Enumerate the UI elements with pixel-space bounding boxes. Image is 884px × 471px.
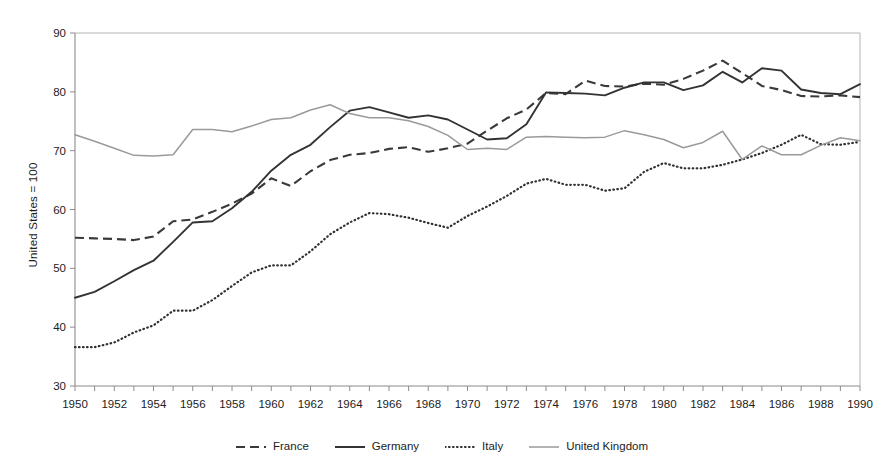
x-tick-label: 1958 — [219, 398, 245, 410]
plot-area: 30405060708090 1950195219541956195819601… — [0, 0, 884, 471]
x-tick-label: 1984 — [729, 398, 755, 410]
legend-label: Italy — [482, 441, 503, 453]
x-tick-label: 1962 — [298, 398, 324, 410]
y-tick-label: 50 — [53, 262, 66, 274]
x-tick-label: 1972 — [494, 398, 520, 410]
y-tick-label: 80 — [53, 86, 66, 98]
legend-item-france[interactable]: France — [236, 441, 309, 453]
series-line-united-kingdom — [75, 105, 860, 160]
x-tick-label: 1980 — [651, 398, 677, 410]
line-chart-svg: 30405060708090 1950195219541956195819601… — [0, 0, 884, 471]
y-tick-label: 60 — [53, 204, 66, 216]
x-tick-label: 1970 — [455, 398, 481, 410]
x-tick-label: 1954 — [141, 398, 167, 410]
x-tick-label: 1956 — [180, 398, 206, 410]
x-tick-label: 1978 — [612, 398, 638, 410]
y-tick-label: 90 — [53, 27, 66, 39]
x-tick-label: 1966 — [376, 398, 402, 410]
x-tick-label: 1986 — [769, 398, 795, 410]
legend-label: Germany — [372, 441, 419, 453]
y-tick-label: 70 — [53, 145, 66, 157]
legend-label: United Kingdom — [566, 441, 648, 453]
legend-swatch-dashed — [236, 442, 266, 452]
series-line-germany — [75, 68, 860, 297]
legend-swatch-thin-solid — [529, 442, 559, 452]
x-axis-ticks: 1950195219541956195819601962196419661968… — [62, 386, 873, 410]
y-tick-label: 40 — [53, 321, 66, 333]
legend-label: France — [273, 441, 309, 453]
y-axis-ticks: 30405060708090 — [53, 27, 75, 392]
x-tick-label: 1968 — [415, 398, 441, 410]
x-tick-label: 1960 — [258, 398, 284, 410]
plot-frame — [75, 33, 860, 386]
legend-item-italy[interactable]: Italy — [445, 441, 503, 453]
x-tick-label: 1952 — [101, 398, 127, 410]
x-tick-label: 1974 — [533, 398, 559, 410]
x-tick-label: 1976 — [572, 398, 598, 410]
x-tick-label: 1950 — [62, 398, 88, 410]
x-tick-label: 1990 — [847, 398, 873, 410]
x-tick-label: 1982 — [690, 398, 716, 410]
chart-page: United States = 100 30405060708090 19501… — [0, 0, 884, 471]
legend-swatch-solid — [335, 442, 365, 452]
legend-swatch-dotted — [445, 442, 475, 452]
y-tick-label: 30 — [53, 380, 66, 392]
data-series-group — [75, 61, 860, 348]
legend-item-united-kingdom[interactable]: United Kingdom — [529, 441, 648, 453]
x-tick-label: 1988 — [808, 398, 834, 410]
series-line-france — [75, 61, 860, 240]
legend-item-germany[interactable]: Germany — [335, 441, 419, 453]
x-tick-label: 1964 — [337, 398, 363, 410]
chart-legend: FranceGermanyItalyUnited Kingdom — [0, 436, 884, 458]
series-line-italy — [75, 135, 860, 347]
